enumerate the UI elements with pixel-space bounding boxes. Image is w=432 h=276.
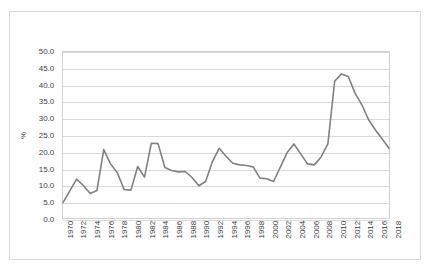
- x-tick-label: 1976: [107, 221, 116, 238]
- x-tick-label: 1972: [79, 221, 88, 238]
- x-tick-label: 2000: [271, 221, 280, 238]
- y-tick-label: 15.0: [39, 164, 54, 173]
- x-tick-label: 1998: [257, 221, 266, 238]
- y-tick-label: 10.0: [39, 181, 54, 190]
- x-tick-label: 1994: [230, 221, 239, 238]
- x-tick-label: 2006: [312, 221, 321, 238]
- x-tick-label: 1990: [202, 221, 211, 238]
- y-tick-label: 40.0: [39, 80, 54, 89]
- x-tick-label: 1984: [161, 221, 170, 238]
- x-tick-label: 2018: [394, 221, 403, 238]
- x-tick-label: 2008: [325, 221, 334, 238]
- x-tick-label: 2002: [284, 221, 293, 238]
- x-tick-label: 2010: [339, 221, 348, 238]
- y-tick-label: 25.0: [39, 131, 54, 140]
- y-tick-label: 5.0: [43, 198, 54, 207]
- x-tick-label: 1986: [175, 221, 184, 238]
- x-tick-label: 2014: [366, 221, 375, 238]
- x-axis-tick-labels: 1970197219741976197819801982198419861988…: [62, 221, 390, 261]
- chart-figure: % 0.05.010.015.020.025.030.035.040.045.0…: [9, 11, 421, 260]
- x-tick-label: 2012: [353, 221, 362, 238]
- x-tick-label: 2004: [298, 221, 307, 238]
- x-tick-label: 1996: [243, 221, 252, 238]
- x-tick-label: 1988: [189, 221, 198, 238]
- y-axis-tick-labels: 0.05.010.015.020.025.030.035.040.045.050…: [10, 51, 58, 219]
- y-tick-label: 20.0: [39, 147, 54, 156]
- x-tick-label: 2016: [380, 221, 389, 238]
- y-tick-label: 50.0: [39, 47, 54, 56]
- y-tick-label: 30.0: [39, 114, 54, 123]
- x-tick-label: 1974: [93, 221, 102, 238]
- x-tick-label: 1970: [66, 221, 75, 238]
- x-tick-label: 1978: [120, 221, 129, 238]
- plot-area: [62, 51, 390, 219]
- y-tick-label: 0.0: [43, 215, 54, 224]
- series-polyline: [63, 74, 389, 203]
- x-tick-label: 1992: [216, 221, 225, 238]
- y-tick-label: 45.0: [39, 63, 54, 72]
- y-tick-label: 35.0: [39, 97, 54, 106]
- x-tick-label: 1982: [148, 221, 157, 238]
- x-tick-label: 1980: [134, 221, 143, 238]
- series-line-chart: [63, 52, 389, 218]
